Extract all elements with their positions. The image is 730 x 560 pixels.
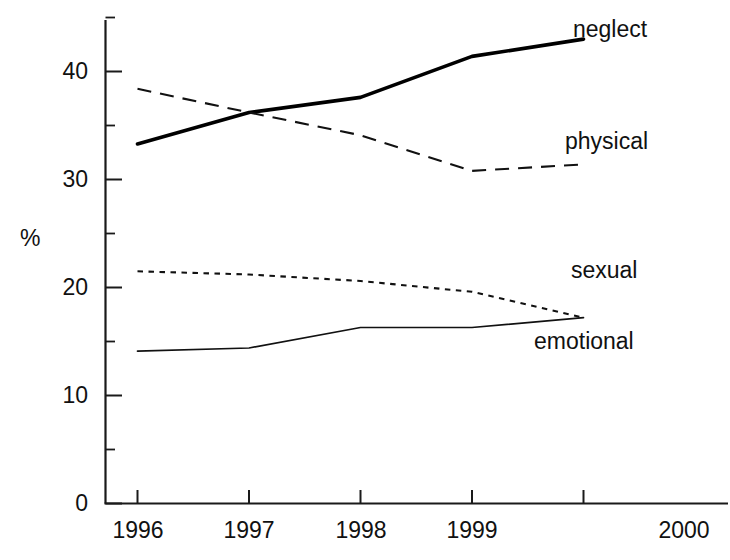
y-tick-label-20: 20 — [28, 274, 88, 301]
y-axis-major-ticks — [106, 72, 123, 504]
series-label-neglect: neglect — [573, 16, 647, 43]
series-label-emotional: emotional — [534, 328, 634, 355]
x-tick-label-1997: 1997 — [204, 517, 294, 544]
series-line-sexual — [138, 271, 584, 317]
y-tick-label-0: 0 — [28, 490, 88, 517]
y-axis-title: % — [20, 225, 40, 252]
y-tick-label-10: 10 — [28, 382, 88, 409]
line-chart-figure: % 40 30 20 10 0 1996 1997 1998 1999 2000… — [0, 0, 730, 560]
x-tick-label-2000: 2000 — [639, 517, 729, 544]
series-label-sexual: sexual — [571, 257, 637, 284]
x-tick-label-1998: 1998 — [316, 517, 406, 544]
x-tick-label-1999: 1999 — [427, 517, 517, 544]
y-tick-label-30: 30 — [28, 166, 88, 193]
series-label-physical: physical — [565, 128, 648, 155]
series-line-emotional — [138, 318, 584, 352]
y-tick-label-40: 40 — [28, 58, 88, 85]
x-tick-label-1996: 1996 — [93, 517, 183, 544]
series-line-neglect — [138, 39, 584, 144]
x-axis-ticks — [138, 490, 584, 504]
y-axis-minor-ticks — [106, 18, 116, 450]
series-line-physical — [138, 89, 584, 171]
